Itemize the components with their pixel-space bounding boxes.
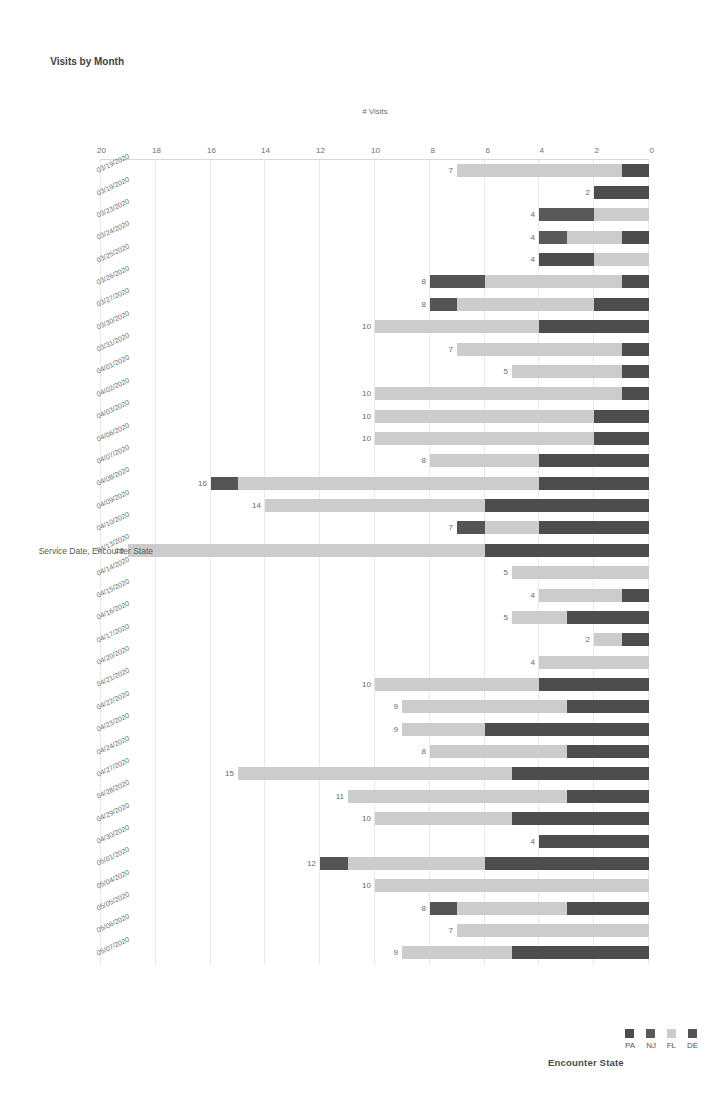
bar-segment-fl[interactable] bbox=[348, 857, 485, 870]
bar-segment-fl[interactable] bbox=[457, 164, 621, 177]
bar-row[interactable]: 7 bbox=[457, 164, 649, 177]
bar-segment-pa[interactable] bbox=[622, 589, 649, 602]
bar-segment-pa[interactable] bbox=[594, 186, 649, 199]
bar-segment-de[interactable] bbox=[430, 902, 457, 915]
bar-row[interactable]: 19 bbox=[128, 544, 649, 557]
bar-row[interactable]: 4 bbox=[539, 589, 649, 602]
bar-segment-fl[interactable] bbox=[567, 231, 622, 244]
bar-segment-nj[interactable] bbox=[539, 231, 566, 244]
bar-row[interactable]: 9 bbox=[402, 946, 649, 959]
bar-segment-fl[interactable] bbox=[485, 276, 622, 289]
bar-segment-fl[interactable] bbox=[402, 723, 484, 736]
bar-row[interactable]: 7 bbox=[457, 343, 649, 356]
bar-row[interactable]: 4 bbox=[539, 231, 649, 244]
bar-segment-fl[interactable] bbox=[430, 745, 567, 758]
bar-segment-fl[interactable] bbox=[238, 477, 539, 490]
bar-segment-fl[interactable] bbox=[485, 521, 540, 534]
bar-segment-pa[interactable] bbox=[567, 902, 649, 915]
bar-segment-pa[interactable] bbox=[485, 544, 649, 557]
bar-row[interactable]: 5 bbox=[512, 611, 649, 624]
bar-segment-fl[interactable] bbox=[375, 387, 622, 400]
bar-segment-fl[interactable] bbox=[512, 365, 622, 378]
bar-segment-fl[interactable] bbox=[375, 678, 539, 691]
bar-row[interactable]: 10 bbox=[375, 432, 649, 445]
bar-row[interactable]: 8 bbox=[430, 454, 649, 467]
bar-segment-fl[interactable] bbox=[430, 454, 540, 467]
bar-segment-pa[interactable] bbox=[622, 164, 649, 177]
bar-segment-de[interactable] bbox=[430, 298, 457, 311]
bar-row[interactable]: 2 bbox=[594, 633, 649, 646]
bar-segment-pa[interactable] bbox=[622, 276, 649, 289]
bar-row[interactable]: 8 bbox=[430, 276, 649, 289]
bar-segment-pa[interactable] bbox=[539, 454, 649, 467]
bar-segment-fl[interactable] bbox=[594, 253, 649, 266]
bar-row[interactable]: 4 bbox=[539, 656, 649, 669]
bar-row[interactable]: 5 bbox=[512, 566, 649, 579]
bar-segment-fl[interactable] bbox=[375, 432, 594, 445]
bar-row[interactable]: 10 bbox=[375, 320, 649, 333]
bar-segment-pa[interactable] bbox=[622, 633, 649, 646]
bar-segment-pa[interactable] bbox=[567, 611, 649, 624]
bar-row[interactable]: 12 bbox=[320, 857, 649, 870]
bar-segment-pa[interactable] bbox=[512, 946, 649, 959]
bar-row[interactable]: 14 bbox=[265, 499, 649, 512]
bar-segment-de[interactable] bbox=[211, 477, 238, 490]
bar-segment-pa[interactable] bbox=[594, 298, 649, 311]
bar-row[interactable]: 4 bbox=[539, 835, 649, 848]
bar-segment-pa[interactable] bbox=[567, 790, 649, 803]
bar-row[interactable]: 9 bbox=[402, 723, 649, 736]
bar-segment-fl[interactable] bbox=[512, 611, 567, 624]
bar-segment-fl[interactable] bbox=[402, 946, 512, 959]
bar-segment-fl[interactable] bbox=[512, 566, 649, 579]
bar-segment-pa[interactable] bbox=[539, 678, 649, 691]
bar-segment-pa[interactable] bbox=[539, 521, 649, 534]
legend-item-fl[interactable]: FL bbox=[667, 1029, 676, 1050]
bar-segment-fl[interactable] bbox=[265, 499, 484, 512]
legend-item-pa[interactable]: PA bbox=[625, 1029, 635, 1050]
bar-row[interactable]: 4 bbox=[539, 208, 649, 221]
bar-segment-fl[interactable] bbox=[375, 879, 649, 892]
bar-row[interactable]: 2 bbox=[594, 186, 649, 199]
bar-segment-pa[interactable] bbox=[622, 231, 649, 244]
bar-row[interactable]: 10 bbox=[375, 678, 649, 691]
bar-segment-fl[interactable] bbox=[457, 924, 649, 937]
bar-segment-pa[interactable] bbox=[485, 499, 649, 512]
bar-row[interactable]: 8 bbox=[430, 902, 649, 915]
bar-segment-pa[interactable] bbox=[512, 812, 649, 825]
bar-segment-nj[interactable] bbox=[539, 208, 594, 221]
bar-segment-pa[interactable] bbox=[622, 365, 649, 378]
bar-segment-pa[interactable] bbox=[539, 320, 649, 333]
bar-row[interactable]: 10 bbox=[375, 387, 649, 400]
bar-segment-fl[interactable] bbox=[128, 544, 484, 557]
bar-segment-pa[interactable] bbox=[539, 835, 649, 848]
bar-segment-fl[interactable] bbox=[348, 790, 567, 803]
bar-segment-fl[interactable] bbox=[594, 633, 621, 646]
bar-segment-pa[interactable] bbox=[512, 767, 649, 780]
bar-segment-de[interactable] bbox=[320, 857, 347, 870]
bar-row[interactable]: 7 bbox=[457, 924, 649, 937]
bar-segment-fl[interactable] bbox=[457, 902, 567, 915]
bar-segment-pa[interactable] bbox=[594, 410, 649, 423]
bar-segment-pa[interactable] bbox=[485, 857, 649, 870]
bar-row[interactable]: 5 bbox=[512, 365, 649, 378]
bar-segment-fl[interactable] bbox=[402, 700, 566, 713]
bar-row[interactable]: 10 bbox=[375, 410, 649, 423]
bar-segment-pa[interactable] bbox=[539, 477, 649, 490]
bar-segment-pa[interactable] bbox=[567, 745, 649, 758]
bar-row[interactable]: 15 bbox=[238, 767, 649, 780]
bar-segment-de[interactable] bbox=[457, 521, 484, 534]
bar-segment-pa[interactable] bbox=[622, 343, 649, 356]
bar-segment-fl[interactable] bbox=[594, 208, 649, 221]
bar-segment-pa[interactable] bbox=[622, 387, 649, 400]
legend-item-de[interactable]: DE bbox=[687, 1029, 698, 1050]
bar-row[interactable]: 11 bbox=[348, 790, 649, 803]
bar-row[interactable]: 10 bbox=[375, 812, 649, 825]
bar-row[interactable]: 10 bbox=[375, 879, 649, 892]
bar-segment-pa[interactable] bbox=[539, 253, 594, 266]
bar-segment-fl[interactable] bbox=[375, 410, 594, 423]
bar-segment-fl[interactable] bbox=[375, 320, 539, 333]
bar-row[interactable]: 8 bbox=[430, 745, 649, 758]
bar-segment-fl[interactable] bbox=[457, 343, 621, 356]
bar-segment-pa[interactable] bbox=[567, 700, 649, 713]
bar-segment-pa[interactable] bbox=[485, 723, 649, 736]
